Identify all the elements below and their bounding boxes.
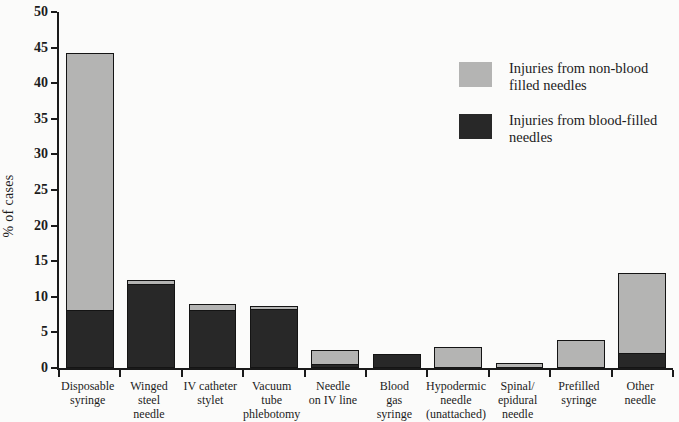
bar-segment-non-blood xyxy=(311,350,359,365)
y-tick-label: 35 xyxy=(34,112,48,126)
y-tick-label: 25 xyxy=(34,183,48,197)
y-tick-mark xyxy=(51,118,57,120)
legend-swatch xyxy=(459,114,492,139)
bar-slot xyxy=(366,12,427,368)
bar xyxy=(311,350,359,368)
y-tick-mark xyxy=(51,331,57,333)
y-tick-label: 50 xyxy=(34,5,48,19)
x-category-label: Hypodermic needle (unattached) xyxy=(425,380,487,422)
bar xyxy=(618,273,666,368)
bar-segment-non-blood xyxy=(189,304,237,311)
y-tick-label: 0 xyxy=(41,361,48,375)
legend: Injuries from non-blood filled needlesIn… xyxy=(459,60,657,147)
x-tick-mark xyxy=(181,370,183,377)
x-axis-labels: Disposable syringeWinged steel needleIV … xyxy=(57,380,671,422)
bar-segment-non-blood xyxy=(557,340,605,368)
x-category-label: Winged steel needle xyxy=(118,380,179,422)
legend-entry: Injuries from non-blood filled needles xyxy=(459,60,657,95)
y-tick-label: 5 xyxy=(41,325,48,339)
legend-label: Injuries from blood-filled needles xyxy=(509,112,657,147)
y-tick-mark xyxy=(51,296,57,298)
y-tick-label: 30 xyxy=(34,147,48,161)
y-tick-mark xyxy=(51,367,57,369)
x-tick-mark xyxy=(672,370,674,377)
bar-slot xyxy=(182,12,243,368)
y-tick-mark xyxy=(51,82,57,84)
bar-segment-blood-filled xyxy=(311,365,359,368)
x-tick-mark xyxy=(58,370,60,377)
bar-segment-non-blood xyxy=(496,363,544,368)
bar xyxy=(189,304,237,368)
bar-segment-blood-filled xyxy=(250,310,298,368)
bar-slot xyxy=(305,12,366,368)
bar xyxy=(250,306,298,368)
y-tick-label: 15 xyxy=(34,254,48,268)
bar-slot xyxy=(59,12,120,368)
x-category-label: Needle on IV line xyxy=(302,380,363,422)
legend-swatch xyxy=(459,62,492,87)
y-tick-mark xyxy=(51,47,57,49)
x-category-label: Vacuum tube phlebotomy xyxy=(241,380,302,422)
x-tick-mark xyxy=(426,370,428,377)
x-category-label: IV catheter stylet xyxy=(180,380,241,422)
y-tick-label: 20 xyxy=(34,219,48,233)
x-tick-mark xyxy=(488,370,490,377)
y-tick-label: 40 xyxy=(34,76,48,90)
x-tick-mark xyxy=(365,370,367,377)
x-tick-mark xyxy=(242,370,244,377)
bar xyxy=(496,363,544,368)
legend-label: Injuries from non-blood filled needles xyxy=(509,60,648,95)
bar-slot xyxy=(243,12,304,368)
y-axis-title: % of cases xyxy=(1,166,17,246)
bar xyxy=(373,354,421,368)
bar-segment-blood-filled xyxy=(189,311,237,368)
x-category-label: Spinal/ epidural needle xyxy=(487,380,548,422)
x-tick-mark xyxy=(549,370,551,377)
x-tick-mark xyxy=(304,370,306,377)
bar-segment-blood-filled xyxy=(618,354,666,368)
x-tick-mark xyxy=(119,370,121,377)
bar xyxy=(127,280,175,368)
bar-segment-non-blood xyxy=(66,53,114,311)
x-category-label: Prefilled syringe xyxy=(548,380,609,422)
y-tick-mark xyxy=(51,189,57,191)
y-tick-mark xyxy=(51,260,57,262)
x-category-label: Disposable syringe xyxy=(57,380,118,422)
bar xyxy=(66,53,114,368)
bar-segment-blood-filled xyxy=(66,311,114,368)
y-tick-label: 10 xyxy=(34,290,48,304)
bar-slot xyxy=(120,12,181,368)
y-tick-mark xyxy=(51,225,57,227)
x-category-label: Blood gas syringe xyxy=(364,380,425,422)
y-tick-mark xyxy=(51,11,57,13)
bar-segment-blood-filled xyxy=(373,354,421,368)
y-tick-label: 45 xyxy=(34,41,48,55)
bar xyxy=(434,347,482,368)
x-tick-mark xyxy=(611,370,613,377)
y-tick-mark xyxy=(51,153,57,155)
bar-segment-non-blood xyxy=(618,273,666,354)
legend-entry: Injuries from blood-filled needles xyxy=(459,112,657,147)
bar xyxy=(557,340,605,368)
bar-segment-blood-filled xyxy=(127,285,175,368)
x-category-label: Other needle xyxy=(610,380,671,422)
bar-segment-non-blood xyxy=(434,347,482,368)
